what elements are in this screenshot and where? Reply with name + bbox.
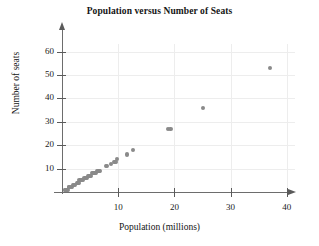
y-axis-tick-label: 30: [32, 116, 54, 126]
data-point: [168, 127, 172, 131]
y-axis-tick: [57, 75, 66, 76]
gridline-horizontal: [62, 122, 295, 123]
x-axis-tick: [118, 188, 119, 197]
x-axis-tick: [287, 188, 288, 197]
y-axis-title: Number of seats: [11, 28, 21, 138]
gridline-vertical: [174, 44, 175, 192]
y-axis-tick: [57, 122, 66, 123]
y-axis-tick: [57, 169, 66, 170]
x-axis-line: [54, 192, 290, 193]
y-axis-tick-label: 40: [32, 92, 54, 102]
gridline-vertical: [118, 44, 119, 192]
gridline-horizontal: [62, 98, 295, 99]
data-point: [125, 152, 129, 156]
gridline-vertical: [231, 44, 232, 192]
x-axis-tick-label: 20: [162, 202, 186, 212]
x-axis-tick-label: 40: [275, 202, 299, 212]
x-axis-tick: [231, 188, 232, 197]
x-axis-tick-label: 10: [106, 202, 130, 212]
y-axis-tick-label: 20: [32, 139, 54, 149]
x-axis-title: Population (millions): [0, 222, 319, 232]
x-axis-tick: [174, 188, 175, 197]
gridline-horizontal: [62, 75, 295, 76]
data-point: [201, 106, 205, 110]
y-axis-tick: [57, 98, 66, 99]
gridline-horizontal: [62, 145, 295, 146]
x-axis-tick-label: 30: [219, 202, 243, 212]
y-axis-tick: [57, 145, 66, 146]
y-axis-tick-label: 60: [32, 46, 54, 56]
data-point: [98, 169, 102, 173]
data-point: [131, 148, 135, 152]
data-point: [268, 66, 272, 70]
y-axis-arrow-icon: [59, 22, 65, 30]
chart-title: Population versus Number of Seats: [0, 6, 319, 16]
gridline-vertical: [287, 44, 288, 192]
y-axis-tick: [57, 52, 66, 53]
y-axis-tick-label: 50: [32, 69, 54, 79]
y-axis-tick-label: 10: [32, 163, 54, 173]
x-axis-arrow-icon: [288, 189, 296, 195]
plot-area: [62, 40, 298, 192]
scatter-chart-figure: Population versus Number of Seats Number…: [0, 0, 319, 246]
gridline-horizontal: [62, 52, 295, 53]
